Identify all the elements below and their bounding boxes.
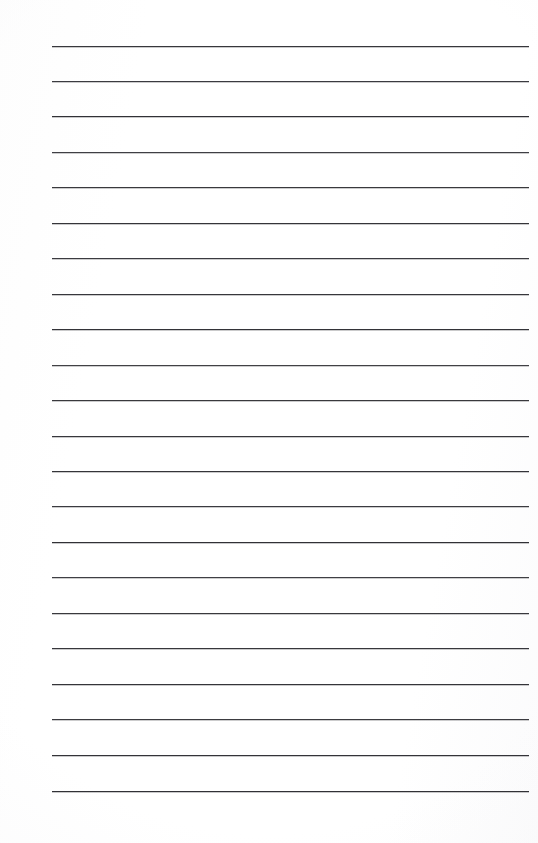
ruled-line: [52, 471, 529, 472]
ruled-line-layer: [0, 0, 538, 843]
ruled-line: [52, 223, 529, 224]
ruled-line: [52, 613, 529, 614]
ruled-line: [52, 329, 529, 330]
ruled-line: [52, 116, 529, 117]
ruled-line: [52, 294, 529, 295]
ruled-line: [52, 81, 529, 82]
ruled-line: [52, 577, 529, 578]
ruled-line: [52, 187, 529, 188]
ruled-line: [52, 258, 529, 259]
ruled-line: [52, 436, 529, 437]
ruled-line: [52, 400, 529, 401]
ruled-line: [52, 365, 529, 366]
ruled-line: [52, 648, 529, 649]
ruled-line: [52, 719, 529, 720]
ruled-line: [52, 506, 529, 507]
ruled-line: [52, 46, 529, 47]
lined-paper-page: [0, 0, 538, 843]
ruled-line: [52, 791, 529, 792]
ruled-line: [52, 152, 529, 153]
ruled-line: [52, 542, 529, 543]
ruled-line: [52, 755, 529, 756]
ruled-line: [52, 684, 529, 685]
